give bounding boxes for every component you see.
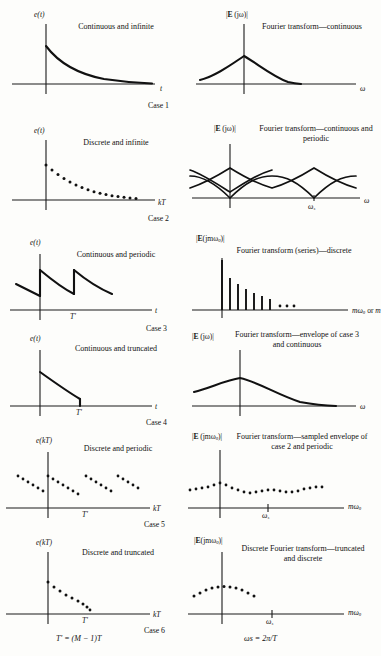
case-5-left-description: Discrete and periodic	[76, 444, 160, 454]
case-3-left-description: Continuous and periodic	[68, 250, 164, 260]
sawtooth-decay-1	[40, 270, 74, 294]
case-5-right-y-label: |E (jmω0)|	[192, 432, 222, 442]
case-2-y-axis-label: e(t)	[34, 126, 45, 135]
case-5-right-x-label: mω0	[348, 502, 361, 512]
case-4-right-x-label: ω	[360, 402, 365, 411]
truncated-sampled-dots	[47, 581, 92, 612]
case-5-period-label: T'	[82, 510, 88, 519]
case-1-left-description: Continuous and infinite	[66, 22, 166, 32]
periodic-sampled-dots	[17, 475, 140, 496]
case-2-x-axis-label: kT	[158, 198, 166, 207]
case-6-right-description: Discrete Fourier transform—truncated and…	[236, 544, 370, 564]
sampled-exponential-dots	[45, 164, 138, 200]
case-1-right-x-label: ω	[360, 84, 365, 93]
case-6-left-panel: e(kT) kT T' Discrete and truncated T' = …	[0, 538, 188, 656]
case-6-right-formula: ωs = 2π/T	[244, 634, 277, 644]
case-6-left-formula: T' = (M − 1)T	[56, 634, 101, 644]
truncated-spectrum-dots	[193, 585, 256, 597]
case-5-y-axis-label: e(kT)	[36, 436, 52, 445]
envelope-curve	[194, 378, 336, 406]
case-6-right-y-label: |E(jmω0)|	[194, 536, 223, 546]
case-2-right-description: Fourier transform—continuous and periodi…	[258, 124, 374, 144]
case-2-omega-s-label: ωs	[308, 202, 315, 212]
case-4-caption: Case 4	[146, 418, 167, 428]
case-3-right-panel: |E(jmω0)| mω0 or m Fourier transform (se…	[188, 238, 377, 344]
case-1-left-panel: e(t) t Continuous and infinite	[0, 6, 188, 114]
case-3-y-axis-label: e(t)	[30, 238, 41, 247]
case-1-right-y-label: |E (jω)|	[226, 10, 248, 19]
case-1-caption: Case 1	[148, 101, 169, 111]
case-2-caption: Case 2	[148, 214, 169, 224]
case-6-caption: Case 6	[144, 626, 165, 636]
case-4-right-description: Fourier transform—envelope of case 3 and…	[230, 330, 364, 350]
case-5-right-panel: |E (jmω0)| mω0 ωs Fourier transform—samp…	[188, 432, 377, 540]
case-5-omega-s-label: ωs	[262, 511, 269, 521]
sawtooth-pretail	[16, 284, 40, 296]
case-5-caption: Case 5	[144, 520, 165, 530]
case-4-period-label: T'	[76, 408, 82, 417]
truncated-exponential-curve	[40, 372, 80, 399]
case-6-x-axis-label: kT	[153, 610, 161, 619]
case-6-y-axis-label: e(kT)	[36, 538, 52, 547]
case-3-x-axis-label: t	[155, 306, 157, 315]
case-2-right-panel: |E (jω)| ω ωs Fourier transform—continuo…	[188, 122, 377, 232]
decaying-exponential-curve	[46, 46, 152, 84]
case-4-x-axis-label: t	[155, 402, 157, 411]
case-4-left-description: Continuous and truncated	[68, 344, 164, 354]
case-6-omega-s-label: ωs	[266, 617, 273, 627]
case-1-x-axis-label: t	[160, 84, 162, 93]
case-6-left-description: Discrete and truncated	[76, 548, 160, 558]
case-4-row: e(t) t T' Continuous and truncated |E (j…	[0, 330, 377, 438]
sampled-periodic-spectrum-dots	[189, 482, 324, 495]
case-4-right-y-label: |E (jω)|	[192, 332, 214, 341]
case-4-right-panel: |E (jω)| ω Fourier transform—envelope of…	[188, 330, 377, 438]
case-3-right-x-label: mω0 or m	[352, 306, 381, 316]
case-2-left-description: Discrete and infinite	[68, 138, 164, 148]
case-3-right-description: Fourier transform (series)—discrete	[228, 246, 360, 256]
line-spectrum-ellipsis-dots	[279, 305, 296, 308]
case-6-right-panel: |E(jmω0)| mω0 ωs Discrete Fourier transf…	[188, 538, 377, 656]
sawtooth-decay-2	[74, 270, 112, 294]
case-2-right-y-label: |E (jω)|	[214, 124, 236, 133]
case-6-period-label: T'	[82, 616, 88, 625]
case-4-y-axis-label: e(t)	[30, 334, 41, 343]
case-1-spectrum-plot	[188, 6, 377, 106]
case-1-row: e(t) t Continuous and infinite |E (jω)| …	[0, 6, 377, 114]
case-3-period-label: T'	[70, 312, 76, 321]
case-1-y-axis-label: e(t)	[34, 10, 45, 19]
case-6-right-x-label: mω0	[348, 608, 361, 618]
line-spectrum-stems	[222, 260, 270, 310]
case-2-row: e(t) kT Discrete and infinite |E (jω)| ω…	[0, 122, 377, 232]
case-5-x-axis-label: kT	[153, 504, 161, 513]
case-3-right-y-label: |E(jmω0)|	[196, 234, 225, 244]
case-1-right-description: Fourier transform—continuous	[260, 22, 364, 32]
case-2-right-x-label: ω	[364, 196, 369, 205]
case-5-right-description: Fourier transform—sampled envelope of ca…	[232, 432, 372, 452]
case-1-right-panel: |E (jω)| ω Fourier transform—continuous	[188, 6, 377, 114]
spectrum-lobe-curve	[200, 56, 301, 84]
case-3-row: e(t) t T' Continuous and periodic	[0, 238, 377, 344]
aliased-lobe-curve-c	[190, 170, 272, 192]
case-6-row: e(kT) kT T' Discrete and truncated T' = …	[0, 538, 377, 656]
case-5-row: e(kT) kT T' Discrete and periodic	[0, 432, 377, 540]
